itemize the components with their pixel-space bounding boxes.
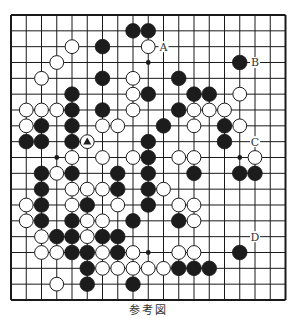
black-stone — [141, 166, 156, 181]
white-stone — [111, 198, 125, 212]
white-stone — [187, 119, 201, 133]
white-stone — [50, 166, 64, 180]
black-stone — [80, 277, 95, 292]
black-stone — [141, 150, 156, 165]
black-stone — [34, 134, 49, 149]
black-stone — [171, 214, 186, 229]
white-stone — [202, 103, 216, 117]
black-stone — [34, 182, 49, 197]
white-stone — [187, 246, 201, 260]
white-stone — [19, 119, 33, 133]
black-stone — [232, 245, 247, 260]
black-stone — [232, 166, 247, 181]
black-stone — [232, 55, 247, 70]
point-label-a: A — [159, 41, 169, 54]
white-stone — [80, 230, 94, 244]
white-stone — [96, 246, 110, 260]
white-stone — [126, 151, 140, 165]
black-stone — [65, 134, 80, 149]
black-stone — [248, 166, 263, 181]
black-stone — [80, 261, 95, 276]
black-stone — [187, 166, 202, 181]
black-stone — [171, 71, 186, 86]
star-point — [146, 250, 151, 255]
white-stone — [126, 261, 140, 275]
black-stone — [126, 24, 141, 39]
white-stone — [65, 40, 79, 54]
white-stone — [187, 198, 201, 212]
black-stone — [34, 198, 49, 213]
white-stone — [187, 214, 201, 228]
white-stone — [218, 103, 232, 117]
white-stone — [50, 277, 64, 291]
white-stone — [172, 246, 186, 260]
black-stone — [156, 119, 171, 134]
black-stone — [141, 182, 156, 197]
white-stone — [65, 182, 79, 196]
white-stone — [172, 198, 186, 212]
white-stone — [233, 119, 247, 133]
white-stone — [96, 119, 110, 133]
white-stone — [50, 56, 64, 70]
black-stone — [171, 261, 186, 276]
point-label-d: D — [251, 231, 260, 244]
white-stone — [111, 119, 125, 133]
white-stone — [248, 151, 262, 165]
black-stone — [110, 182, 125, 197]
star-point — [54, 155, 59, 160]
white-stone — [172, 151, 186, 165]
black-stone — [141, 134, 156, 149]
black-stone — [141, 24, 156, 39]
black-stone — [19, 134, 34, 149]
black-stone — [34, 214, 49, 229]
black-stone — [65, 103, 80, 118]
white-stone — [126, 103, 140, 117]
white-stone — [80, 182, 94, 196]
white-stone — [187, 103, 201, 117]
black-stone — [110, 229, 125, 244]
black-stone — [95, 39, 110, 54]
black-stone — [126, 277, 141, 292]
white-stone — [19, 198, 33, 212]
black-stone — [95, 71, 110, 86]
white-stone — [19, 103, 33, 117]
black-stone — [65, 119, 80, 134]
point-label-b: B — [251, 56, 259, 69]
white-stone — [157, 261, 171, 275]
white-stone — [96, 214, 110, 228]
point-label-c: C — [251, 136, 259, 149]
black-stone — [202, 261, 217, 276]
black-stone — [65, 87, 80, 102]
white-stone — [111, 261, 125, 275]
white-stone — [126, 87, 140, 101]
black-stone — [65, 214, 80, 229]
black-stone — [80, 198, 95, 213]
white-stone — [96, 182, 110, 196]
black-stone — [202, 87, 217, 102]
black-stone — [34, 119, 49, 134]
black-stone — [34, 166, 49, 181]
black-stone — [80, 245, 95, 260]
star-point — [237, 155, 242, 160]
white-stone — [50, 103, 64, 117]
white-stone — [65, 198, 79, 212]
black-stone — [187, 87, 202, 102]
white-stone — [141, 40, 155, 54]
black-stone — [126, 214, 141, 229]
white-stone — [126, 246, 140, 260]
black-stone — [217, 119, 232, 134]
black-stone — [49, 229, 64, 244]
white-stone — [96, 151, 110, 165]
white-stone — [35, 230, 49, 244]
black-stone — [95, 103, 110, 118]
white-stone — [157, 182, 171, 196]
black-stone — [141, 87, 156, 102]
white-stone — [50, 246, 64, 260]
diagram-caption: 参考図 — [0, 304, 296, 318]
white-stone — [187, 151, 201, 165]
white-stone — [65, 151, 79, 165]
white-stone — [35, 71, 49, 85]
black-stone — [110, 245, 125, 260]
black-stone — [65, 245, 80, 260]
